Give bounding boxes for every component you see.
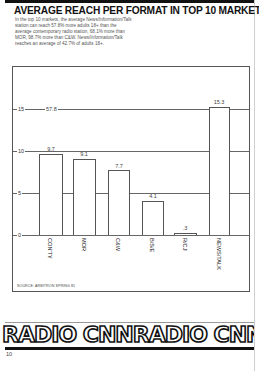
y-tick-15: 15 [17, 106, 25, 112]
bar-value-rcj: .3 [170, 225, 200, 231]
bar-value-conty: 9.7 [36, 146, 66, 152]
cnn-radio-logo-band: RADIO CNNRADIO CNNRA [2, 322, 254, 347]
x-label-cw: C&W [115, 238, 121, 251]
bar-bse [142, 201, 164, 235]
bar-value-cw: 7.7 [104, 163, 134, 169]
bar-rcj [174, 233, 197, 236]
annotation-57-8: 57.8 [45, 106, 58, 112]
y-tick-10: 10 [17, 148, 25, 154]
bar-news-talk [209, 107, 230, 236]
x-label-conty: CON'TY [47, 238, 53, 259]
gridline-0 [13, 235, 249, 236]
top-rule [5, 0, 254, 3]
bar-mor [73, 159, 96, 235]
bar-value-bse: 4.1 [138, 193, 168, 199]
x-label-mor: MOR [81, 238, 87, 251]
y-tick-0: 0 [17, 232, 22, 238]
intro-paragraph: In the top 10 markets, the average News/… [15, 17, 133, 47]
bar-value-news-talk: 15.3 [204, 99, 234, 105]
x-label-rcj: R/CJ [182, 238, 188, 250]
page-edge [254, 0, 255, 371]
bar-value-mor: 9.1 [69, 151, 99, 157]
y-tick-5: 5 [17, 190, 22, 196]
chart-source: SOURCE: ARBITRON SPRING 81 [17, 284, 75, 288]
bar-conty [39, 154, 63, 236]
logo-rule-bottom [5, 347, 254, 350]
bar-cw [108, 170, 130, 235]
x-label-bse: B/S/E [149, 238, 155, 252]
x-label-news-talk: NEWS/TALK [216, 238, 222, 270]
bar-chart: 15 10 5 0 57.8 9.7 9.1 7.7 4.1 .3 15.3 C… [12, 66, 250, 292]
page-number: 10 [6, 351, 12, 357]
page-title: AVERAGE REACH PER FORMAT IN TOP 10 MARKE… [14, 5, 254, 16]
